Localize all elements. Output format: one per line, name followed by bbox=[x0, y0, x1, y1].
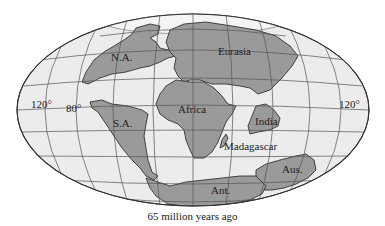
label-madagascar: Madagascar bbox=[224, 141, 277, 152]
longitude-label-right-120: 120° bbox=[339, 99, 360, 110]
label-africa: Africa bbox=[178, 104, 206, 115]
longitude-label-left-80: 80° bbox=[66, 103, 81, 114]
label-north-america: N.A. bbox=[111, 52, 132, 63]
label-india: India bbox=[255, 116, 278, 127]
label-eurasia: Eurasia bbox=[218, 46, 251, 57]
label-antarctica: Ant. bbox=[211, 185, 230, 196]
longitude-label-left-120: 120° bbox=[31, 99, 52, 110]
label-south-america: S.A. bbox=[113, 118, 133, 129]
label-australia: Aus. bbox=[282, 164, 302, 175]
figure-caption: 65 million years ago bbox=[0, 210, 385, 222]
